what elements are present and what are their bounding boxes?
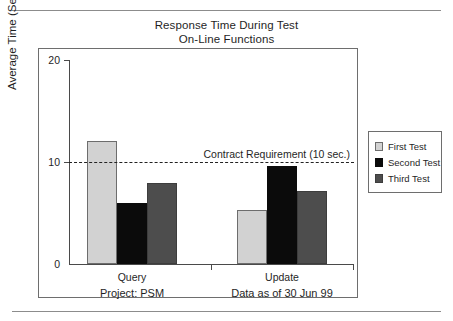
bottom-divider-rule (12, 311, 441, 312)
legend-label-third-test: Third Test (388, 173, 430, 184)
legend-label-second-test: Second Test (388, 157, 440, 168)
x-category-label-update: Update (265, 271, 299, 283)
y-tick-label-0: 0 (54, 258, 60, 270)
footnote-data-date: Data as of 30 Jun 99 (231, 287, 333, 299)
x-tick-separator (211, 264, 212, 270)
x-tick-end (353, 264, 354, 270)
legend-swatch-third-test-icon (375, 174, 383, 183)
contract-requirement-line: Contract Requirement (10 sec.) (69, 162, 354, 163)
bar-query-first-test (87, 141, 117, 264)
legend-swatch-second-test-icon (375, 158, 383, 167)
bar-query-second-test (117, 203, 147, 264)
chart-legend: First Test Second Test Third Test (368, 131, 442, 193)
y-tick-0: 0 (64, 264, 70, 265)
top-divider-rule (12, 10, 441, 11)
bar-update-second-test (267, 166, 297, 264)
plot-area: 20 10 0 Contract Requirement (10 sec.) (38, 48, 358, 298)
legend-item-second-test: Second Test (375, 154, 436, 170)
y-axis-label: Average Time (Seconds) (6, 0, 18, 90)
bar-query-third-test (147, 183, 177, 264)
legend-label-first-test: First Test (388, 141, 426, 152)
footnote-project: Project: PSM (100, 287, 164, 299)
bar-update-first-test (237, 210, 267, 264)
chart-subtitle: On-Line Functions (0, 32, 453, 46)
bar-update-third-test (297, 191, 327, 264)
y-tick-label-10: 10 (48, 156, 60, 168)
chart-page: Response Time During Test On-Line Functi… (0, 0, 453, 321)
chart-title-block: Response Time During Test On-Line Functi… (0, 18, 453, 46)
legend-swatch-first-test-icon (375, 142, 383, 151)
contract-requirement-label: Contract Requirement (10 sec.) (203, 148, 351, 160)
legend-item-first-test: First Test (375, 138, 436, 154)
y-tick-label-20: 20 (48, 54, 60, 66)
x-category-label-query: Query (118, 271, 147, 283)
chart-title: Response Time During Test (0, 18, 453, 32)
legend-item-third-test: Third Test (375, 170, 436, 186)
